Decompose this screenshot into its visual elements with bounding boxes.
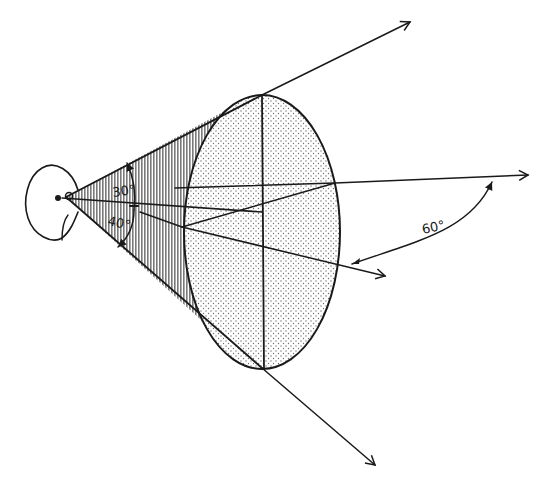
arrow-top xyxy=(262,22,410,95)
label-30-degrees: 30° xyxy=(111,182,136,200)
visual-field-diagram: 30° 40° 60° xyxy=(0,0,544,482)
eye-icon xyxy=(55,195,61,201)
arrow-horizontal xyxy=(335,175,528,183)
label-60-degrees: 60° xyxy=(421,217,447,236)
arrow-bottom xyxy=(262,368,375,465)
head-outline xyxy=(26,165,78,240)
arc-60-start xyxy=(352,258,360,264)
